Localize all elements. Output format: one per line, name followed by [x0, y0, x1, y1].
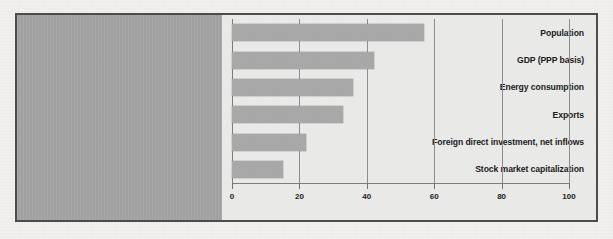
bar: [232, 161, 283, 178]
category-label: Energy consumption: [397, 82, 584, 92]
bar: [232, 106, 343, 123]
x-tick-label: 100: [554, 192, 584, 201]
bar: [232, 79, 353, 96]
gridline-20: [299, 19, 300, 183]
x-tick-label: 40: [352, 192, 382, 201]
x-tick-100: [569, 184, 570, 189]
gridline-100: [569, 19, 570, 183]
category-label: Population: [397, 28, 584, 38]
gridline-0: [232, 19, 233, 183]
category-label: Foreign direct investment, net inflows: [397, 137, 584, 147]
chart-figure-frame: PopulationGDP (PPP basis)Energy consumpt…: [15, 13, 598, 222]
x-tick-label: 60: [419, 192, 449, 201]
x-axis-line: [232, 183, 570, 184]
bar: [232, 134, 306, 151]
x-tick-20: [299, 184, 300, 189]
gridline-40: [367, 19, 368, 183]
category-label-panel: [17, 15, 222, 220]
category-label: GDP (PPP basis): [397, 55, 584, 65]
gridline-60: [434, 19, 435, 183]
x-tick-80: [502, 184, 503, 189]
x-tick-label: 80: [487, 192, 517, 201]
x-tick-label: 0: [217, 192, 247, 201]
bar: [232, 24, 424, 41]
bar: [232, 52, 374, 69]
x-tick-label: 20: [284, 192, 314, 201]
x-tick-40: [367, 184, 368, 189]
category-label: Exports: [397, 110, 584, 120]
page-background: PopulationGDP (PPP basis)Energy consumpt…: [0, 0, 613, 239]
category-label: Stock market capitalization: [397, 164, 584, 174]
x-tick-0: [232, 184, 233, 189]
gridline-80: [502, 19, 503, 183]
x-tick-60: [434, 184, 435, 189]
